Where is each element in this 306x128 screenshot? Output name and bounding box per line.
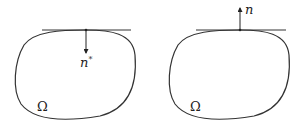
right-figure: n Ω	[169, 2, 289, 119]
diagram-canvas: n* Ω n Ω	[0, 0, 306, 128]
left-figure: n* Ω	[15, 29, 135, 119]
domain-boundary	[15, 30, 135, 119]
domain-boundary	[169, 30, 289, 119]
normal-label: n	[245, 2, 253, 17]
normal-label: n*	[80, 55, 92, 70]
region-label: Ω	[190, 99, 201, 114]
region-label: Ω	[37, 99, 48, 114]
